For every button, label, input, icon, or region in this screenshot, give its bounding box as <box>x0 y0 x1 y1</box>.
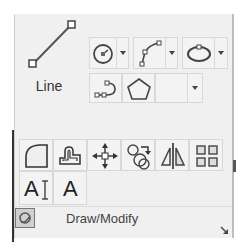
polyline-arc-icon <box>134 38 167 70</box>
panel-icon[interactable] <box>15 208 35 228</box>
line-label: Line <box>20 78 78 94</box>
fillet-button[interactable] <box>19 139 53 171</box>
panel-launcher-button[interactable] <box>220 220 228 228</box>
move-button[interactable] <box>87 139 121 171</box>
array-icon <box>190 140 224 172</box>
line-icon <box>20 18 78 78</box>
copy-icon <box>122 140 156 172</box>
polygon-button[interactable] <box>122 73 155 103</box>
circle-dropdown[interactable] <box>117 37 129 69</box>
array-button[interactable] <box>189 139 223 171</box>
empty-tool-button[interactable] <box>155 73 188 103</box>
offset-icon <box>54 140 88 172</box>
scroll-marker <box>233 160 236 172</box>
panel-title-divider <box>14 206 232 207</box>
panel-title: Draw/Modify <box>66 211 138 226</box>
empty-tool-dropdown[interactable] <box>188 73 203 103</box>
ellipse-dropdown[interactable] <box>215 37 228 69</box>
circle-icon <box>90 38 118 70</box>
arrow-down-right-icon <box>220 226 228 234</box>
text-cursor-icon <box>20 172 54 206</box>
line-button[interactable]: Line <box>20 18 78 100</box>
move-icon <box>88 140 122 172</box>
mirror-icon <box>156 140 190 172</box>
text-button[interactable]: A <box>53 171 87 205</box>
text-icon: A <box>63 176 78 202</box>
text-edit-button[interactable]: A <box>19 171 53 205</box>
copy-button[interactable] <box>121 139 155 171</box>
spline-icon <box>90 74 123 104</box>
panel-edge <box>12 130 14 242</box>
polyline-dropdown[interactable] <box>166 37 178 69</box>
spline-button[interactable] <box>89 73 122 103</box>
circle-button[interactable] <box>89 37 117 69</box>
ellipse-icon <box>183 38 216 70</box>
ellipse-button[interactable] <box>182 37 215 69</box>
mirror-button[interactable] <box>155 139 189 171</box>
offset-button[interactable] <box>53 139 87 171</box>
polyline-button[interactable] <box>133 37 166 69</box>
fillet-icon <box>20 140 54 172</box>
draw-modify-icon <box>16 209 34 227</box>
polygon-icon <box>123 74 156 104</box>
